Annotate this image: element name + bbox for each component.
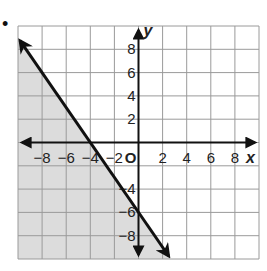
y-tick-label: −8	[118, 227, 135, 244]
x-tick-label: −8	[34, 149, 51, 166]
x-axis-label: x	[245, 149, 256, 166]
x-tick-label: 2	[158, 149, 166, 166]
x-tick-label: −6	[58, 149, 75, 166]
x-tick-label: 4	[183, 149, 191, 166]
x-tick-label: −2	[106, 149, 123, 166]
y-tick-label: 4	[127, 87, 135, 104]
x-tick-label: 6	[207, 149, 215, 166]
x-tick-label: 8	[231, 149, 239, 166]
coordinate-plane: • −8−6−4−224688642−4−6−8Oxy	[0, 0, 267, 271]
bullet-marker: •	[2, 14, 8, 34]
y-tick-label: 6	[127, 64, 135, 81]
y-axis-label: y	[143, 22, 154, 39]
origin-label: O	[125, 149, 137, 166]
y-tick-label: 8	[127, 40, 135, 57]
y-tick-label: 2	[127, 110, 135, 127]
